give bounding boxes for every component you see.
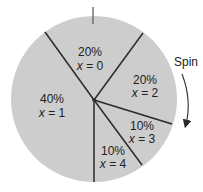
spinner-diagram: 20% x = 0 20% x = 2 10% x = 3 10% x = 4 … — [0, 0, 203, 192]
svg-text:x = 1: x = 1 — [38, 106, 66, 120]
svg-text:20%: 20% — [78, 45, 102, 59]
svg-text:40%: 40% — [40, 92, 64, 106]
svg-text:10%: 10% — [101, 144, 125, 158]
svg-text:x = 4: x = 4 — [99, 157, 127, 171]
sector-label-x3: 10% x = 3 — [128, 119, 156, 146]
svg-text:10%: 10% — [130, 119, 154, 133]
svg-text:20%: 20% — [133, 73, 157, 87]
sector-label-x1: 40% x = 1 — [38, 92, 66, 120]
svg-text:x = 0: x = 0 — [76, 59, 104, 73]
center-hub — [92, 98, 96, 102]
sector-label-x0: 20% x = 0 — [76, 45, 104, 73]
spin-label: Spin — [174, 55, 198, 69]
svg-text:x = 3: x = 3 — [128, 132, 156, 146]
sector-label-x4: 10% x = 4 — [99, 144, 127, 171]
spin-arrow-icon — [182, 74, 188, 124]
svg-text:x = 2: x = 2 — [131, 86, 159, 100]
sector-label-x2: 20% x = 2 — [131, 73, 159, 100]
